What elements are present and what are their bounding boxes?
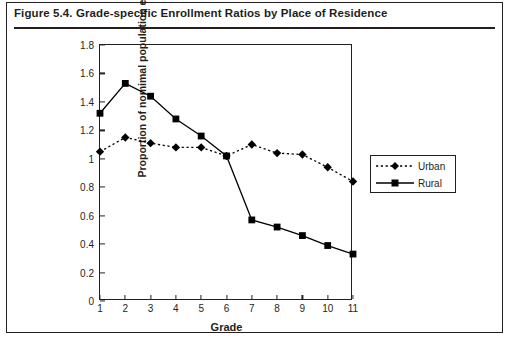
x-tick-label: 7 xyxy=(249,303,255,314)
y-tick-label: 0 xyxy=(88,296,94,307)
figure-container: Figure 5.4. Grade-specific Enrollment Ra… xyxy=(0,0,509,337)
x-tick-label: 10 xyxy=(322,303,333,314)
data-point-rural xyxy=(198,133,205,140)
title-divider xyxy=(14,27,495,29)
x-axis-label: Grade xyxy=(100,321,353,333)
x-tick-label: 11 xyxy=(348,303,358,314)
figure-title: Figure 5.4. Grade-specific Enrollment Ra… xyxy=(14,7,387,19)
chart-series-layer xyxy=(100,45,353,301)
data-point-urban xyxy=(324,163,332,171)
data-point-rural xyxy=(274,224,281,231)
y-tick-label: 1.6 xyxy=(80,68,94,79)
y-tick-label: 1 xyxy=(88,153,94,164)
legend-label-rural: Rural xyxy=(418,178,442,189)
x-tick-label: 2 xyxy=(123,303,129,314)
data-point-rural xyxy=(324,242,331,249)
data-point-urban xyxy=(197,143,205,151)
x-tick-label: 5 xyxy=(198,303,204,314)
data-point-urban xyxy=(248,140,256,148)
series-line-rural xyxy=(100,83,353,254)
data-point-urban xyxy=(172,143,180,151)
data-point-rural xyxy=(147,93,154,100)
y-tick-label: 1.8 xyxy=(80,40,94,51)
data-point-urban xyxy=(146,139,154,147)
data-point-rural xyxy=(299,232,306,239)
data-point-rural xyxy=(173,116,180,123)
y-tick-label: 1.4 xyxy=(80,96,94,107)
y-tick-label: 0.8 xyxy=(80,182,94,193)
legend-item-rural: Rural xyxy=(375,175,453,191)
data-point-rural xyxy=(350,251,357,258)
legend-swatch-urban-icon xyxy=(375,159,415,173)
data-point-rural xyxy=(122,80,129,87)
x-tick-label: 6 xyxy=(224,303,230,314)
data-point-urban xyxy=(273,149,281,157)
x-tick-label: 3 xyxy=(148,303,154,314)
y-tick-label: 0.2 xyxy=(80,267,94,278)
x-tick-label: 4 xyxy=(173,303,179,314)
legend-swatch-rural-icon xyxy=(375,176,415,190)
data-point-rural xyxy=(223,153,230,160)
plot-area: Proportion of nomimal population enrolle… xyxy=(99,44,352,300)
data-point-urban xyxy=(121,133,129,141)
x-tick-label: 8 xyxy=(274,303,280,314)
legend-label-urban: Urban xyxy=(418,161,445,172)
y-tick-label: 0.4 xyxy=(80,239,94,250)
y-tick-label: 1.2 xyxy=(80,125,94,136)
legend-item-urban: Urban xyxy=(375,158,453,174)
x-tick-label: 1 xyxy=(97,303,103,314)
data-point-rural xyxy=(248,217,255,224)
y-tick-label: 0.6 xyxy=(80,210,94,221)
data-point-urban xyxy=(298,150,306,158)
x-tick-label: 9 xyxy=(300,303,306,314)
data-point-rural xyxy=(97,110,104,117)
chart-legend: Urban Rural xyxy=(370,155,456,193)
